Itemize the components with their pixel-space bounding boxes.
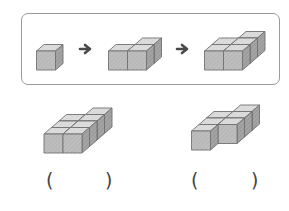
cube-shape-step-1 (37, 45, 64, 71)
answer-close-paren-a: ) (105, 171, 112, 190)
cube-shape-option-a (44, 108, 112, 153)
cube-front-face-hatch (128, 51, 147, 70)
answer-open-paren-a: ( (46, 171, 53, 190)
cube-front-face-hatch (224, 51, 243, 70)
cube (224, 45, 251, 71)
cube-shape-step-2 (109, 38, 162, 70)
arrow-icon (80, 45, 90, 53)
cube-front-face-hatch (109, 51, 128, 70)
cube-front-face-hatch (192, 131, 211, 150)
cube (37, 45, 64, 71)
cube (63, 128, 90, 154)
cube-shape-step-3 (205, 32, 266, 71)
cube-front-face-hatch (63, 134, 82, 153)
cube (128, 45, 155, 71)
cube-scene (0, 0, 289, 211)
cube-front-face-hatch (218, 125, 237, 144)
answer-open-paren-b: ( (191, 171, 198, 190)
answer-close-paren-b: ) (251, 171, 258, 190)
cube (218, 118, 245, 144)
cube-front-face-hatch (44, 134, 63, 153)
cube-front-face-hatch (37, 51, 56, 70)
arrow-icon (177, 45, 187, 53)
cube-shape-option-b (192, 105, 260, 150)
cube-front-face-hatch (205, 51, 224, 70)
cube (192, 125, 219, 151)
